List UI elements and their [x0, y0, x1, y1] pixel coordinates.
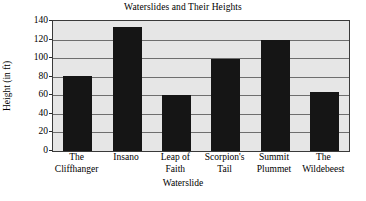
- y-tick-label: 40: [12, 109, 48, 119]
- bar: [162, 95, 191, 151]
- gridline: [53, 132, 349, 133]
- chart-title: Waterslides and Their Heights: [0, 2, 366, 12]
- y-tick-label: 60: [12, 90, 48, 100]
- y-tick-label: 0: [12, 146, 48, 156]
- bar: [310, 92, 339, 151]
- y-tick-label: 120: [12, 35, 48, 45]
- gridline: [53, 40, 349, 41]
- gridline: [53, 114, 349, 115]
- gridline: [53, 58, 349, 59]
- y-tick-label: 20: [12, 127, 48, 137]
- bar: [113, 27, 142, 151]
- x-tick-label: The Wildebeest: [293, 152, 354, 175]
- bar: [261, 40, 290, 151]
- bar: [211, 59, 240, 151]
- y-tick-label: 100: [12, 53, 48, 63]
- plot-area: [52, 20, 350, 152]
- y-tick-label: 80: [12, 72, 48, 82]
- bar: [63, 76, 92, 151]
- bar-chart: Waterslides and Their Heights Height (in…: [0, 0, 366, 201]
- gridline: [53, 77, 349, 78]
- gridline: [53, 95, 349, 96]
- y-tick-label: 140: [12, 16, 48, 26]
- x-axis-label: Waterslide: [0, 178, 366, 188]
